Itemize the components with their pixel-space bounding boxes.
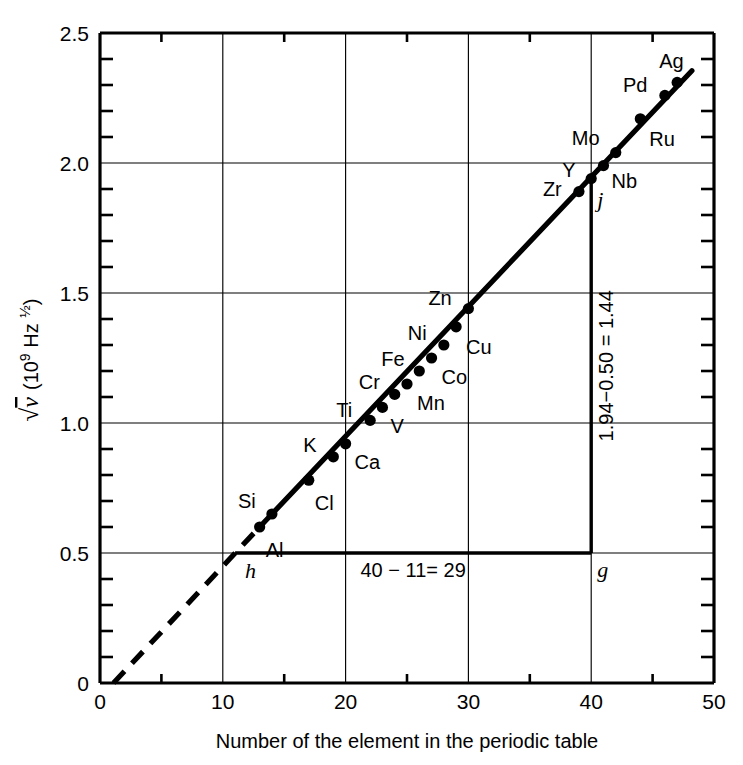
data-point: [401, 378, 412, 389]
data-point-label: Co: [442, 366, 468, 388]
slope-run-annotation: 40 − 11= 29: [360, 559, 465, 581]
vertex-label-g: g: [597, 557, 608, 582]
data-point: [610, 147, 621, 158]
data-point: [254, 521, 265, 532]
vertex-label-h: h: [245, 558, 256, 583]
data-point: [598, 160, 609, 171]
y-tick-label: 1.0: [60, 412, 89, 435]
y-tick-label: 0.5: [60, 542, 89, 565]
data-point-label: Mo: [572, 127, 600, 149]
data-point-label: Mn: [417, 392, 445, 414]
x-tick-label: 50: [702, 690, 725, 713]
data-point-label: Fe: [381, 348, 404, 370]
data-point: [340, 438, 351, 449]
data-point: [672, 77, 683, 88]
data-point-label: Cl: [315, 492, 334, 514]
data-point: [328, 451, 339, 462]
y-tick-label: 1.5: [60, 282, 89, 305]
data-point: [303, 475, 314, 486]
data-point-label: Si: [238, 490, 256, 512]
data-point-label: Ni: [408, 322, 427, 344]
data-point: [635, 113, 646, 124]
data-point: [659, 90, 670, 101]
data-point: [365, 415, 376, 426]
data-point: [377, 402, 388, 413]
data-point: [426, 352, 437, 363]
data-point: [438, 339, 449, 350]
data-point-label: Zn: [428, 287, 451, 309]
data-point: [586, 173, 597, 184]
data-point-label: Y: [562, 159, 575, 181]
data-point-label: Nb: [611, 170, 637, 192]
data-point-label: Al: [266, 539, 284, 561]
data-point: [266, 508, 277, 519]
moseley-plot-figure: AlSiClKCaTiVCrMnFeCoNiCuZnZrYNbMoRuPdAg …: [0, 0, 743, 765]
data-point-label: Ca: [355, 451, 381, 473]
x-tick-label: 0: [94, 690, 106, 713]
slope-rise-annotation: 1.94−0.50 = 1.44: [595, 290, 617, 441]
data-point-label: V: [390, 415, 404, 437]
x-axis-title: Number of the element in the periodic ta…: [216, 730, 598, 752]
data-point: [414, 365, 425, 376]
y-tick-label: 2.0: [60, 152, 89, 175]
data-point: [451, 321, 462, 332]
x-tick-label: 30: [457, 690, 480, 713]
x-tick-label: 40: [580, 690, 603, 713]
data-point: [389, 389, 400, 400]
x-tick-label: 10: [211, 690, 234, 713]
x-tick-label: 20: [334, 690, 357, 713]
y-tick-label: 2.5: [60, 22, 89, 45]
data-point-label: Ru: [649, 128, 675, 150]
data-point-label: Cu: [466, 336, 492, 358]
data-point-label: Ti: [336, 399, 352, 421]
chart-canvas: AlSiClKCaTiVCrMnFeCoNiCuZnZrYNbMoRuPdAg …: [0, 0, 743, 765]
data-point-label: Cr: [359, 371, 380, 393]
data-point-label: Zr: [543, 178, 562, 200]
data-point-label: Pd: [623, 74, 647, 96]
data-point: [463, 303, 474, 314]
data-point: [573, 186, 584, 197]
y-tick-label: 0: [77, 672, 89, 695]
data-point-label: K: [303, 434, 317, 456]
data-point-label: Ag: [659, 50, 683, 72]
